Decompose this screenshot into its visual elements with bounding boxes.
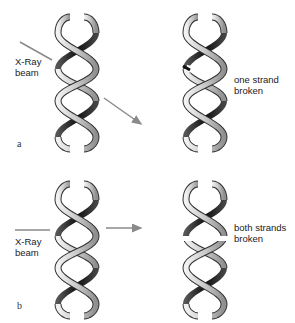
result-label-line2: broken [234, 233, 286, 244]
beam-label-line2: beam [15, 67, 41, 78]
result-label-line1: one strand [234, 74, 279, 85]
result-label-b: both strands broken [234, 222, 286, 244]
dna-helix-intact-a [58, 17, 96, 149]
result-label-line2: broken [234, 85, 279, 96]
panel-b [15, 184, 232, 316]
xray-beam-outgoing-a [104, 98, 141, 124]
xray-beam-label-b: X-Ray beam [15, 236, 41, 258]
beam-label-line2: beam [15, 247, 41, 258]
panel-letter-b: b [17, 300, 22, 311]
dna-damage-diagram: X-Ray beam one strand broken a X-Ray bea… [0, 0, 295, 323]
dna-helix-one-strand-broken [183, 17, 224, 149]
result-label-line1: both strands [234, 222, 286, 233]
dna-helix-both-strands-broken [180, 184, 232, 316]
beam-label-line1: X-Ray [15, 236, 41, 247]
diagram-canvas [0, 0, 295, 323]
beam-label-line1: X-Ray [15, 56, 41, 67]
dna-helix-intact-b [58, 184, 96, 316]
xray-beam-label-a: X-Ray beam [15, 56, 41, 78]
result-label-a: one strand broken [234, 74, 279, 96]
panel-a [20, 17, 224, 149]
panel-letter-a: a [17, 138, 21, 149]
